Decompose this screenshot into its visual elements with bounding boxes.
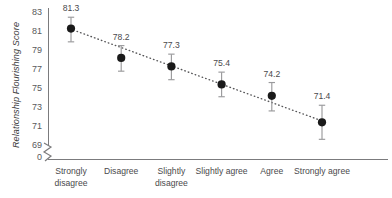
x-axis-label-5: Strongly agree [294, 166, 350, 178]
data-point-group-2 [167, 54, 175, 80]
data-label-3: 75.4 [213, 59, 230, 68]
data-point-group-1 [117, 46, 125, 72]
data-point-group-4 [268, 83, 276, 111]
x-axis-label-1: Disagree [104, 166, 138, 178]
x-axis-label-4: Agree [260, 166, 283, 178]
data-label-2: 77.3 [163, 41, 180, 50]
data-label-4: 74.2 [263, 70, 280, 79]
data-point-group-5 [318, 105, 326, 139]
data-point-group-3 [218, 72, 226, 97]
x-axis-label-2: Slightly disagree [155, 166, 188, 189]
x-axis-label-3: Slightly agree [196, 166, 248, 178]
chart-container: Relationship Flourishing Score 838179777… [0, 0, 392, 198]
data-label-0: 81.3 [63, 4, 80, 13]
x-axis-label-0: Strongly disagree [55, 166, 88, 189]
data-label-5: 71.4 [314, 92, 331, 101]
x-axis-tick-labels: Strongly disagreeDisagreeSlightly disagr… [0, 166, 392, 196]
data-point-group-0 [67, 17, 75, 42]
data-label-1: 78.2 [113, 33, 130, 42]
